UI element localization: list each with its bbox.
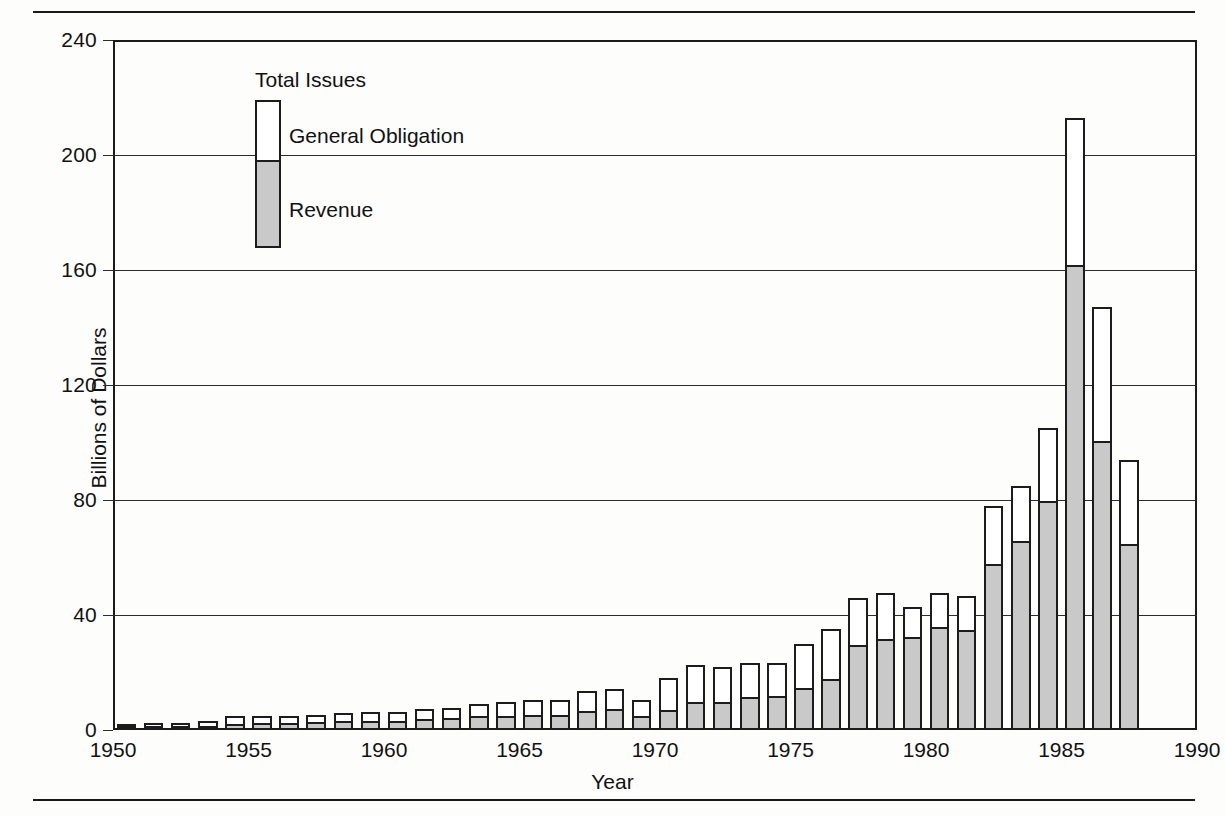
y-tick-mark-160 [103,270,113,271]
bar-revenue-segment-1953 [200,726,216,728]
plot-area: 04080120160200240 1950195519601965197019… [113,40,1197,730]
x-axis-label: Year [0,770,1225,794]
x-tick-label-1970: 1970 [632,738,679,762]
y-tick-label-40: 40 [73,603,97,627]
bar-1957 [306,715,326,730]
bar-1981 [957,596,977,730]
x-tick-label-1990: 1990 [1174,738,1221,762]
bar-revenue-segment-1962 [444,718,460,728]
bar-revenue-segment-1983 [1013,541,1029,728]
x-tick-label-1960: 1960 [361,738,408,762]
bar-revenue-segment-1984 [1040,501,1056,728]
bar-revenue-segment-1979 [905,637,921,728]
bar-revenue-segment-1964 [498,716,514,728]
bar-1966 [550,700,570,730]
bar-1975 [794,644,814,730]
figure-container: Billions of Dollars Year 040801201602002… [0,0,1225,816]
bar-revenue-segment-1982 [986,564,1002,728]
bar-1953 [198,721,218,730]
bar-1951 [144,723,164,730]
y-tick-mark-240 [103,40,113,41]
y-tick-mark-120 [103,385,113,386]
legend-label-revenue: Revenue [289,198,373,222]
bar-revenue-segment-1974 [769,696,785,728]
y-axis-label: Billions of Dollars [87,327,111,488]
y-tick-label-120: 120 [61,373,97,397]
y-tick-label-80: 80 [73,488,97,512]
bar-1955 [252,716,272,730]
x-tick-label-1985: 1985 [1038,738,1085,762]
bar-revenue-segment-1956 [281,723,297,728]
bar-revenue-segment-1987 [1121,544,1137,728]
bar-revenue-segment-1977 [850,645,866,728]
bar-revenue-segment-1976 [823,679,839,728]
bar-1984 [1038,428,1058,730]
bar-1978 [876,593,896,730]
legend-swatch-revenue [257,160,279,246]
bar-1986 [1092,307,1112,730]
bar-1969 [632,700,652,730]
bar-1965 [523,700,543,730]
legend-title: Total Issues [255,68,366,92]
bar-revenue-segment-1955 [254,723,270,728]
bar-1960 [388,712,408,730]
bar-revenue-segment-1957 [308,722,324,728]
bar-revenue-segment-1968 [607,709,623,728]
bottom-rule [33,799,1195,801]
bar-1973 [740,663,760,730]
bar-1982 [984,506,1004,730]
bar-revenue-segment-1978 [878,639,894,728]
bar-1971 [686,665,706,730]
bar-1958 [334,713,354,730]
bar-revenue-segment-1972 [715,702,731,728]
bar-revenue-segment-1950 [119,726,135,728]
y-tick-mark-80 [103,500,113,501]
bar-revenue-segment-1960 [390,721,406,728]
bar-revenue-segment-1959 [363,721,379,728]
x-tick-label-1955: 1955 [225,738,272,762]
bar-1970 [659,678,679,730]
bar-1977 [848,598,868,730]
bar-1963 [469,704,489,730]
bar-1952 [171,723,191,730]
x-tick-label-1950: 1950 [90,738,137,762]
bar-1976 [821,629,841,730]
top-rule [33,11,1195,13]
y-tick-mark-0 [103,730,113,731]
bar-1964 [496,702,516,730]
bar-1962 [442,708,462,730]
x-tick-label-1965: 1965 [496,738,543,762]
y-tick-label-160: 160 [61,258,97,282]
x-tick-label-1980: 1980 [903,738,950,762]
legend-swatch [255,100,281,248]
bar-1961 [415,709,435,730]
bar-revenue-segment-1971 [688,702,704,728]
bar-1972 [713,667,733,730]
bar-revenue-segment-1986 [1094,441,1110,729]
bar-1979 [903,607,923,730]
bar-revenue-segment-1954 [227,724,243,728]
y-tick-mark-40 [103,615,113,616]
bar-revenue-segment-1981 [959,630,975,728]
bar-1950 [117,724,137,730]
bar-revenue-segment-1980 [932,627,948,728]
bar-revenue-segment-1969 [634,716,650,728]
bar-revenue-segment-1967 [579,711,595,728]
bar-revenue-segment-1951 [146,726,162,728]
bar-1968 [605,689,625,730]
bar-revenue-segment-1975 [796,688,812,728]
chart-legend: Total Issues General Obligation Revenue [193,68,523,288]
bar-1974 [767,663,787,730]
bar-1959 [361,712,381,730]
bar-revenue-segment-1952 [173,726,189,728]
bar-revenue-segment-1966 [552,715,568,728]
bar-1980 [930,593,950,730]
bar-revenue-segment-1985 [1067,265,1083,728]
bar-revenue-segment-1958 [336,721,352,728]
y-tick-label-200: 200 [61,143,97,167]
bar-revenue-segment-1963 [471,716,487,728]
bar-1985 [1065,118,1085,730]
bar-1987 [1119,460,1139,730]
bar-revenue-segment-1973 [742,697,758,728]
bar-revenue-segment-1965 [525,715,541,728]
